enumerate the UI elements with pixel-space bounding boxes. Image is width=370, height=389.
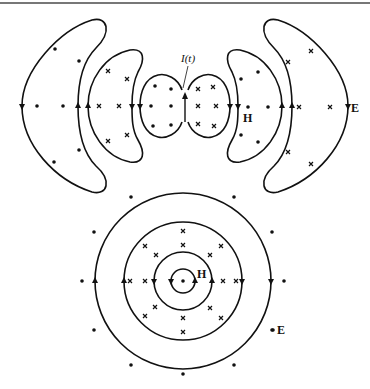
e-marker-dot	[271, 328, 275, 332]
label-pointer	[183, 66, 188, 88]
h-label-top: H	[243, 111, 253, 125]
e-loop-left-inner	[88, 50, 143, 162]
e-loop-center-right	[188, 75, 230, 138]
e-loop-center-left	[140, 75, 182, 138]
side-view: I(t)	[19, 19, 359, 192]
dipole-field-diagram: I(t)	[0, 0, 370, 389]
h-label-bottom: H	[197, 267, 207, 281]
e-loop-right-outer	[264, 19, 348, 192]
current-arrow-icon	[182, 92, 188, 99]
top-view: H E	[80, 193, 286, 376]
h-field-dots-top	[35, 47, 270, 164]
e-loop-right-inner	[227, 50, 282, 162]
e-label-bottom: E	[277, 323, 285, 337]
e-label-top: E	[351, 101, 359, 115]
current-label: I(t)	[180, 52, 195, 65]
